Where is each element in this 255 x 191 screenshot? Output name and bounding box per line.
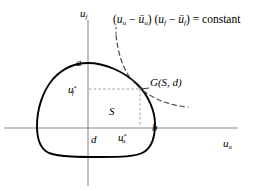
label-point-b: b bbox=[152, 122, 158, 133]
x-axis-label-subscript: u bbox=[229, 143, 232, 150]
diagram-canvas bbox=[0, 0, 255, 191]
u-star-f-superscript: * bbox=[74, 84, 77, 91]
label-region-s: S bbox=[109, 106, 115, 117]
formula-close-paren-1: ) bbox=[148, 13, 152, 25]
u-star-f-subscript: f bbox=[72, 89, 74, 96]
formula-minus-2: − bbox=[166, 13, 178, 25]
formula-minus-1: − bbox=[126, 13, 138, 25]
label-nash-solution-point: G(S, d) bbox=[150, 77, 182, 88]
label-point-a: a bbox=[76, 57, 82, 68]
nash-product-formula: (uu − ūu) (uf − ūf) = constant bbox=[113, 14, 240, 27]
y-axis-label: uf bbox=[80, 8, 87, 21]
formula-equals: = bbox=[190, 13, 202, 25]
y-axis-label-subscript: f bbox=[86, 13, 88, 20]
formula-rhs: constant bbox=[202, 13, 240, 25]
u-star-u-subscript: u bbox=[122, 137, 125, 144]
x-axis-label: uu bbox=[223, 138, 232, 151]
nash-point-leader-line bbox=[141, 88, 149, 89]
nash-product-level-curve bbox=[116, 35, 188, 107]
label-u-star-f: u*f bbox=[68, 84, 74, 97]
nash-bargaining-diagram: uf uu (uu − ūu) (uf − ūf) = constant a b… bbox=[0, 0, 255, 191]
label-u-star-u: u*u bbox=[118, 132, 125, 145]
label-disagreement-point-d: d bbox=[91, 134, 97, 145]
